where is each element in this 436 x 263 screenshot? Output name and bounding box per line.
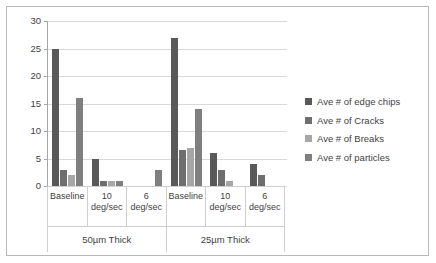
y-axis-tick-label: 0	[36, 181, 41, 191]
bar	[179, 150, 186, 186]
bar-group	[48, 21, 88, 186]
chart-screenshot: 051015202530 Baseline10deg/sec6deg/secBa…	[0, 0, 436, 263]
legend-swatch-icon	[305, 117, 312, 124]
x-axis-category-label: Baseline	[167, 187, 207, 226]
x-axis-category-label-line: 6	[144, 191, 149, 202]
x-axis-category-label-line: Baseline	[50, 191, 85, 202]
bar	[68, 175, 75, 186]
bar	[92, 159, 99, 187]
x-axis-group-label-text: 50µm Thick	[82, 234, 131, 245]
y-axis-tick-label: 25	[30, 44, 41, 54]
x-axis-category-label-line: deg/sec	[249, 202, 281, 213]
bar	[218, 170, 225, 187]
legend-item[interactable]: Ave # of Cracks	[305, 116, 400, 126]
chart-figure-frame: 051015202530 Baseline10deg/sec6deg/secBa…	[6, 6, 429, 256]
legend-item[interactable]: Ave # of edge chips	[305, 97, 400, 107]
legend-item[interactable]: Ave # of Breaks	[305, 134, 400, 144]
legend-item[interactable]: Ave # of particles	[305, 153, 400, 163]
x-axis-category-label-line: 6	[262, 191, 267, 202]
x-axis-category-label-line: deg/sec	[130, 202, 162, 213]
y-axis-tick-label: 10	[30, 126, 41, 136]
x-axis-group-label: 25µm Thick	[167, 227, 286, 252]
legend-label: Ave # of Cracks	[317, 116, 384, 126]
x-axis-category-label: 6deg/sec	[127, 187, 167, 226]
bar-group	[167, 21, 207, 186]
bars-layer	[48, 21, 285, 186]
bar-group	[88, 21, 128, 186]
bar	[155, 170, 162, 187]
y-axis-tick-label: 15	[30, 99, 41, 109]
y-axis-tick-label: 30	[30, 16, 41, 26]
x-axis-category-label-line: 10	[220, 191, 230, 202]
x-axis-category-band: Baseline10deg/sec6deg/secBaseline10deg/s…	[47, 186, 285, 226]
legend-label: Ave # of Breaks	[317, 134, 384, 144]
plot-area-wrapper: 051015202530	[47, 21, 285, 186]
x-axis-group-label: 50µm Thick	[48, 227, 167, 252]
x-axis-category-label: 10deg/sec	[88, 187, 128, 226]
x-axis-category-label-line: Baseline	[168, 191, 203, 202]
y-axis-tick-label: 5	[36, 154, 41, 164]
bar	[210, 153, 217, 186]
legend-swatch-icon	[305, 98, 312, 105]
bar	[195, 109, 202, 186]
legend-label: Ave # of edge chips	[317, 97, 400, 107]
bar-group	[246, 21, 286, 186]
x-axis-category-label-line: deg/sec	[209, 202, 241, 213]
bar	[258, 175, 265, 186]
bar	[60, 170, 67, 187]
x-axis-category-label: 10deg/sec	[206, 187, 246, 226]
bar	[187, 148, 194, 187]
plot-area: 051015202530	[47, 21, 285, 186]
bar-group	[127, 21, 167, 186]
bar	[250, 164, 257, 186]
y-axis-tick-label: 20	[30, 71, 41, 81]
x-axis-category-label: Baseline	[48, 187, 88, 226]
bar	[171, 38, 178, 187]
bar	[76, 98, 83, 186]
legend-swatch-icon	[305, 154, 312, 161]
x-axis-category-label-line: deg/sec	[91, 202, 123, 213]
bar-group	[206, 21, 246, 186]
bar	[52, 49, 59, 187]
x-axis-group-label-text: 25µm Thick	[201, 234, 250, 245]
legend-swatch-icon	[305, 135, 312, 142]
x-axis-category-label: 6deg/sec	[246, 187, 286, 226]
chart-legend: Ave # of edge chipsAve # of CracksAve # …	[305, 97, 400, 162]
x-axis-category-label-line: 10	[102, 191, 112, 202]
x-axis-group-band: 50µm Thick25µm Thick	[47, 226, 285, 252]
legend-label: Ave # of particles	[317, 153, 390, 163]
